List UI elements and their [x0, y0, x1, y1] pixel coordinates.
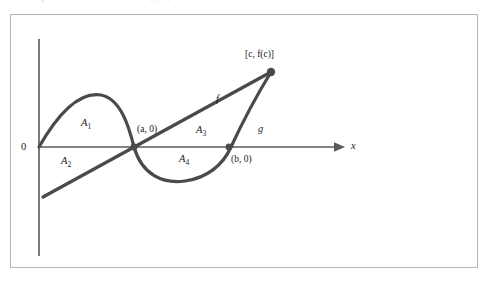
clipped-header-text-strip: p. . . . . . . . . . . . . . . . . . . .… [0, 0, 490, 11]
region-a4-sub: 4 [185, 158, 189, 167]
region-label-a2: A2 [61, 156, 71, 169]
point-a-marker [131, 144, 138, 151]
origin-label: 0 [21, 142, 26, 153]
clipped-header-text: p. . . . . . . . . . . . . . . . . . . .… [42, 0, 472, 2]
region-label-a3: A3 [196, 125, 206, 138]
curve-f-label: f [216, 94, 219, 105]
point-a-label: (a, 0) [137, 125, 157, 135]
region-label-a1: A1 [81, 118, 91, 131]
figure-box: 0 A1 A2 A3 A4 (a, 0) (b, 0) [c, f(c)] f … [10, 14, 478, 268]
region-a2-sub: 2 [67, 160, 71, 169]
point-b-marker [226, 144, 233, 151]
point-c-label: [c, f(c)] [245, 50, 274, 60]
region-a1-sub: 1 [87, 122, 91, 131]
point-c-marker [267, 68, 275, 76]
region-a3-sub: 3 [202, 129, 206, 138]
point-b-label: (b, 0) [231, 155, 252, 165]
region-label-a4: A4 [179, 154, 189, 167]
curve-g-label: g [258, 124, 263, 135]
x-axis-label: x [351, 141, 356, 152]
x-axis-arrowhead [334, 142, 345, 152]
